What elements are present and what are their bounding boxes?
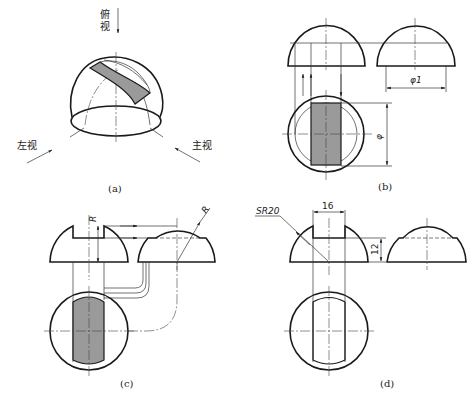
caption-a: (a) xyxy=(108,183,122,194)
caption-c: (c) xyxy=(120,378,134,389)
diameter-1-label: φ1 xyxy=(410,75,422,85)
panel-a-isometric-view: 俯 视 左视 主视 (a) xyxy=(17,8,212,194)
panel-b-projection: φ1 φ (b) xyxy=(282,18,455,192)
slot-width-label: 16 xyxy=(322,201,334,211)
hemisphere-outline xyxy=(71,57,163,117)
top-view-label-1: 俯 xyxy=(100,8,110,20)
slot-cut-surface xyxy=(90,62,150,104)
left-view-label: 左视 xyxy=(17,139,37,151)
caption-d: (d) xyxy=(380,378,394,389)
sphere-radius-label: SR20 xyxy=(256,206,280,216)
slot-shaded-area-c xyxy=(73,297,104,364)
panel-c-projection: R R (c) xyxy=(44,204,215,389)
side-view-d xyxy=(387,227,466,262)
top-view-label-2: 视 xyxy=(100,20,110,32)
side-view-hemisphere xyxy=(377,26,455,66)
diameter-label: φ xyxy=(374,134,384,140)
slot-depth-label: 12 xyxy=(370,244,380,255)
left-view-arrow xyxy=(27,150,52,163)
technical-drawing: 俯 视 左视 主视 (a) φ1 xyxy=(0,0,473,401)
front-view-hemisphere xyxy=(288,25,365,66)
panel-d-dimensioned: 16 12 SR20 (d) xyxy=(255,201,466,389)
caption-b: (b) xyxy=(378,181,392,192)
radius-label-side: R xyxy=(199,204,211,215)
radius-label-front: R xyxy=(88,216,98,222)
side-view-cut xyxy=(138,231,215,262)
front-view-label: 主视 xyxy=(192,139,212,151)
